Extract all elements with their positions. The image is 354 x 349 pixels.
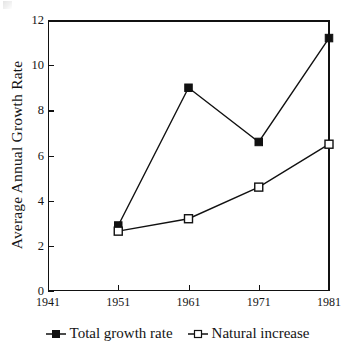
data-point-open-square [185,215,193,223]
data-point-open-square [114,227,122,235]
legend-label-total-growth-rate: Total growth rate [70,325,173,342]
legend-label-natural-increase: Natural increase [212,325,310,342]
legend-entry-total-growth-rate: Total growth rate [45,325,173,342]
chart-figure: Average Annual Growth Rate 12 10 8 6 4 2… [0,0,354,349]
filled-square-icon [45,328,67,340]
open-square-icon [187,328,209,340]
data-point-filled-square [255,138,263,146]
series-layer [0,0,354,349]
data-point-filled-square [325,34,333,42]
series-line [118,144,329,231]
series-total-growth-rate [115,34,333,229]
data-point-open-square [255,183,263,191]
data-point-open-square [325,140,333,148]
data-point-filled-square [185,84,193,92]
chart-legend: Total growth rate Natural increase [0,325,354,342]
series-line [118,38,329,225]
series-natural-increase [114,140,333,235]
legend-entry-natural-increase: Natural increase [187,325,310,342]
